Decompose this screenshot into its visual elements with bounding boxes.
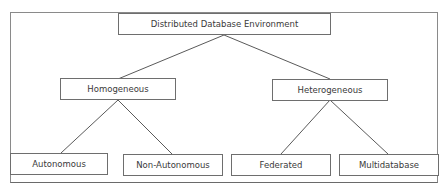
node-homogeneous: Homogeneous xyxy=(60,78,176,100)
edge-homogeneous-autonomous xyxy=(61,100,118,153)
node-multidatabase-label: Multidatabase xyxy=(359,160,419,170)
edge-heterogeneous-multidatabase xyxy=(330,100,388,154)
node-multidatabase: Multidatabase xyxy=(339,154,439,176)
node-non-autonomous-label: Non-Autonomous xyxy=(136,160,209,170)
node-root-label: Distributed Database Environment xyxy=(151,19,299,29)
node-federated: Federated xyxy=(231,154,331,176)
node-homogeneous-label: Homogeneous xyxy=(87,84,148,94)
node-federated-label: Federated xyxy=(260,160,303,170)
edge-root-homogeneous xyxy=(118,35,224,79)
edge-heterogeneous-federated xyxy=(281,100,330,154)
node-non-autonomous: Non-Autonomous xyxy=(123,154,223,176)
node-heterogeneous: Heterogeneous xyxy=(272,79,388,101)
node-root: Distributed Database Environment xyxy=(118,13,331,35)
node-heterogeneous-label: Heterogeneous xyxy=(298,85,363,95)
node-autonomous-label: Autonomous xyxy=(32,159,86,169)
edge-root-heterogeneous xyxy=(224,35,330,79)
edge-homogeneous-nonautonomous xyxy=(118,100,172,154)
node-autonomous: Autonomous xyxy=(10,153,108,175)
